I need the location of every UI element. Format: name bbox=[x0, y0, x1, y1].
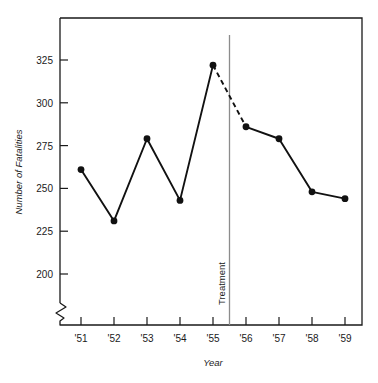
x-axis-title: Year bbox=[203, 357, 223, 368]
x-tick-label-58: '58 bbox=[305, 333, 318, 344]
data-point-59 bbox=[342, 195, 349, 202]
x-axis-tick-labels: '51 '52 '53 '54 '55 '56 '57 '58 '59 bbox=[74, 333, 351, 344]
x-tick-label-51: '51 bbox=[74, 333, 87, 344]
y-tick-label-225: 225 bbox=[36, 226, 53, 237]
y-tick-label-200: 200 bbox=[36, 269, 53, 280]
y-axis-title: Number of Fatalities bbox=[13, 129, 24, 214]
data-point-58 bbox=[309, 188, 316, 195]
treatment-annotation-label: Treatment bbox=[216, 262, 227, 305]
x-tick-label-55: '55 bbox=[206, 333, 219, 344]
data-point-57 bbox=[276, 135, 283, 142]
x-tick-label-57: '57 bbox=[272, 333, 285, 344]
data-point-53 bbox=[144, 135, 151, 142]
data-point-51 bbox=[78, 166, 85, 173]
y-tick-label-300: 300 bbox=[36, 98, 53, 109]
x-tick-label-56: '56 bbox=[239, 333, 252, 344]
y-tick-label-275: 275 bbox=[36, 141, 53, 152]
data-point-56 bbox=[243, 123, 250, 130]
x-tick-label-52: '52 bbox=[107, 333, 120, 344]
fatalities-line-chart: 325 300 275 250 225 200 Number of Fatali… bbox=[0, 0, 378, 383]
x-tick-label-59: '59 bbox=[338, 333, 351, 344]
data-point-52 bbox=[111, 218, 118, 225]
x-tick-label-54: '54 bbox=[173, 333, 186, 344]
x-tick-label-53: '53 bbox=[140, 333, 153, 344]
y-tick-label-325: 325 bbox=[36, 55, 53, 66]
y-tick-label-250: 250 bbox=[36, 183, 53, 194]
data-point-54 bbox=[177, 197, 184, 204]
data-point-55 bbox=[210, 62, 217, 69]
